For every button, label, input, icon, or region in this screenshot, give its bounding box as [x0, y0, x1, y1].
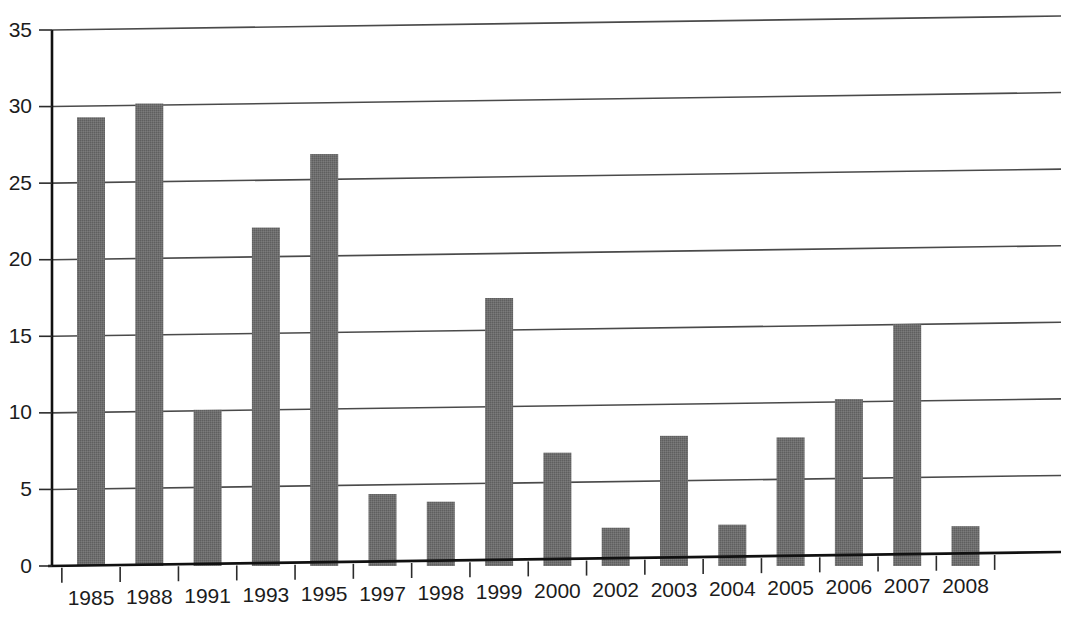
gridline-25: [52, 169, 1061, 183]
chart-canvas: 05101520253035 1985198819911993199519971…: [0, 0, 1083, 624]
bar-1997: [369, 494, 397, 566]
bar-2004: [718, 525, 746, 566]
x-tick-label-1991: 1991: [184, 584, 231, 607]
gridline-35: [52, 16, 1061, 30]
bar-1988: [135, 104, 163, 566]
bar-1985: [77, 117, 105, 566]
y-tick-label-25: 25: [9, 171, 32, 194]
bar-2002: [602, 528, 630, 566]
gridline-20: [52, 246, 1061, 260]
bar-1998: [427, 502, 455, 566]
y-tick-label-5: 5: [20, 477, 32, 500]
x-tick-label-1993: 1993: [243, 583, 290, 606]
bar-chart: 05101520253035 1985198819911993199519971…: [0, 0, 1083, 624]
y-axis-tick-labels: 05101520253035: [9, 18, 32, 577]
y-tick-label-10: 10: [9, 400, 32, 423]
x-tick-label-2002: 2002: [592, 578, 639, 601]
bar-2008: [952, 526, 980, 566]
x-tick-label-2004: 2004: [709, 577, 756, 600]
x-tick-label-2003: 2003: [651, 578, 698, 601]
x-tick-label-1997: 1997: [359, 582, 406, 605]
x-tick-label-2000: 2000: [534, 579, 581, 602]
y-tick-label-15: 15: [9, 324, 32, 347]
y-axis-ticks: [39, 30, 52, 566]
bar-2007: [893, 324, 921, 566]
bar-2000: [543, 453, 571, 566]
x-tick-label-2006: 2006: [826, 575, 873, 598]
y-tick-label-20: 20: [9, 247, 32, 270]
bar-2003: [660, 436, 688, 566]
y-tick-label-30: 30: [9, 94, 32, 117]
y-tick-label-0: 0: [20, 554, 32, 577]
x-tick-label-2005: 2005: [767, 576, 814, 599]
x-tick-label-1995: 1995: [301, 582, 348, 605]
x-tick-label-1998: 1998: [417, 581, 464, 604]
x-axis-tick-labels: 1985198819911993199519971998199920002002…: [68, 574, 989, 609]
x-tick-label-1985: 1985: [68, 586, 115, 609]
bar-2005: [777, 437, 805, 566]
x-tick-label-1988: 1988: [126, 585, 173, 608]
bar-1999: [485, 298, 513, 566]
bar-1991: [194, 410, 222, 566]
x-tick-label-1999: 1999: [476, 580, 523, 603]
gridline-30: [52, 93, 1061, 107]
bar-2006: [835, 399, 863, 566]
x-tick-label-2008: 2008: [942, 574, 989, 597]
y-tick-label-35: 35: [9, 18, 32, 41]
x-tick-label-2007: 2007: [884, 574, 931, 597]
bar-1993: [252, 228, 280, 566]
bar-1995: [310, 154, 338, 566]
